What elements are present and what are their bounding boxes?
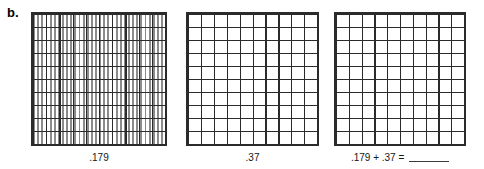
answer-blank[interactable] [409, 161, 449, 162]
major-vertical-gridlines [33, 14, 165, 144]
major-horizontal-gridlines [188, 14, 317, 144]
major-vertical-gridlines [336, 14, 464, 144]
grid-group-hundredths-second: .37 [186, 12, 319, 146]
grid-group-hundredths-sum: .179 + .37 = [334, 12, 466, 146]
decimal-grid-hundredths-sum[interactable] [334, 12, 466, 146]
grid-caption-hundredths-second: .37 [186, 152, 319, 164]
grid-caption-sum: .179 + .37 = [334, 152, 466, 164]
worksheet-figure: b. .179 .37 .179 + .37 = [0, 0, 484, 169]
minor-vertical-gridlines [33, 14, 165, 144]
major-horizontal-gridlines [33, 14, 165, 144]
sum-expression: .179 + .37 = [351, 152, 407, 163]
grid-group-thousandths: .179 [31, 12, 167, 146]
item-letter: b. [7, 6, 19, 19]
major-vertical-gridlines [188, 14, 317, 144]
major-horizontal-gridlines [336, 14, 464, 144]
decimal-grid-thousandths[interactable] [31, 12, 167, 146]
grid-caption-thousandths: .179 [31, 152, 167, 164]
decimal-grid-hundredths-second[interactable] [186, 12, 319, 146]
